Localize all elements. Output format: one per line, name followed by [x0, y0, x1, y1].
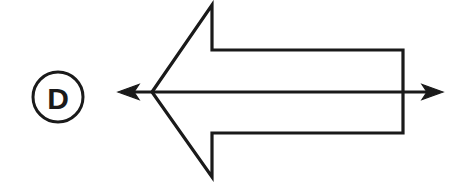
figure-canvas: D: [0, 0, 471, 183]
figure-root: D: [0, 0, 471, 183]
label-badge: D: [33, 72, 83, 122]
label-badge-letter: D: [47, 82, 69, 115]
